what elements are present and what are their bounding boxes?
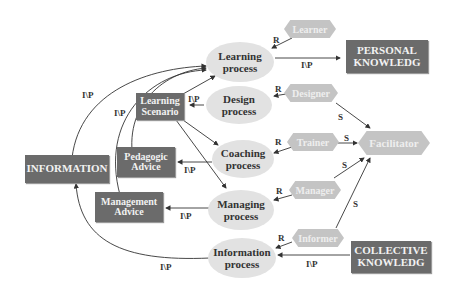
information-process: Information process: [208, 238, 276, 278]
edge-label-r: R: [276, 186, 283, 196]
learner-role: Learner: [284, 20, 336, 38]
edge-label-s: S: [344, 133, 349, 143]
managing-process: Managing process: [208, 190, 274, 230]
designer-role: Designer: [284, 84, 338, 102]
trainer-role: Trainer: [287, 133, 339, 151]
edge-label-ip: I\P: [184, 165, 196, 175]
edge-label-s: S: [353, 199, 358, 209]
informer-role: Informer: [292, 229, 344, 247]
facilitator-role: Facilitator: [358, 131, 430, 155]
edge-label-s: S: [338, 112, 343, 122]
edge-label-ip: I\P: [188, 94, 200, 104]
diagram-canvas: Learning process Design process Coaching…: [0, 0, 452, 287]
design-process: Design process: [206, 86, 272, 124]
edge-label-r: R: [273, 35, 280, 45]
edge-label-ip: I\P: [301, 60, 313, 70]
collective-knowledge-box: COLLECTIVE KNOWLEDG: [351, 241, 431, 273]
edge-label-ip: I\P: [306, 259, 318, 269]
edge-label-ip: I\P: [160, 262, 172, 272]
edge-label-ip: I\P: [114, 108, 126, 118]
edge-label-r: R: [275, 137, 282, 147]
learning-process: Learning process: [206, 42, 274, 82]
edge-label-r: R: [275, 84, 282, 94]
information-box: INFORMATION: [25, 155, 109, 183]
edge-label-ip: I\P: [82, 90, 94, 100]
edge-label-ip: I\P: [180, 211, 192, 221]
learning-scenario-box: Learning Scenario: [136, 93, 184, 120]
edge-label-r: R: [278, 233, 285, 243]
pedagogic-advice-box: Pedagogic Advice: [117, 147, 175, 177]
manager-role: Manager: [289, 181, 341, 199]
coaching-process: Coaching process: [212, 140, 274, 178]
edge-label-s: S: [342, 160, 347, 170]
personal-knowledge-box: PERSONAL KNOWLEDG: [346, 40, 428, 73]
management-advice-box: Management Advice: [95, 192, 163, 222]
